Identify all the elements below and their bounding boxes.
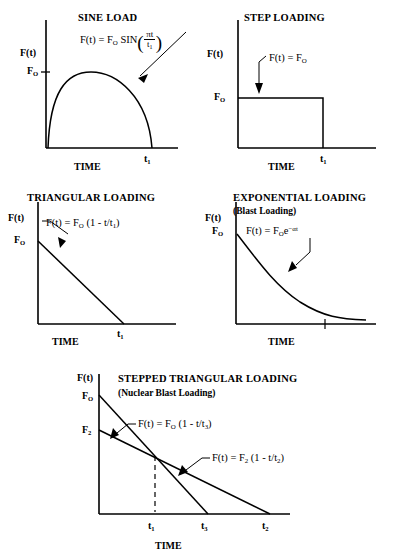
step-annotation-arrowhead: [255, 83, 263, 94]
decay-line-f0-t3: [99, 395, 208, 514]
triangular-loading-plot: [0, 186, 200, 362]
annotation-b-leader: [186, 458, 210, 470]
triangular-annotation-arrowhead: [58, 237, 66, 248]
sine-curve: [48, 72, 152, 148]
sine-annotation-leader: [140, 32, 186, 76]
exponential-decay-curve: [237, 234, 366, 320]
exponential-annotation-leader: [296, 238, 310, 265]
exponential-annotation-arrowhead: [288, 261, 297, 272]
step-pulse-curve: [238, 98, 323, 148]
panel-triangular-loading: TRIANGULAR LOADING F(t) = FO (1 - t/t1) …: [0, 186, 200, 362]
panel-exponential-loading: EXPONENTIAL LOADING (Blast Loading) F(t)…: [200, 186, 400, 362]
exponential-loading-plot: [200, 186, 400, 362]
panel-step-loading: STEP LOADING F(t) = FO F(t) FO TIME t1: [200, 0, 400, 186]
panel-stepped-triangular-loading: STEPPED TRIANGULAR LOADING (Nuclear Blas…: [0, 362, 400, 558]
sine-annotation-arrowhead: [138, 74, 148, 83]
triangular-annotation-leader: [42, 221, 68, 234]
step-annotation-leader: [259, 56, 266, 86]
step-loading-plot: [200, 0, 400, 186]
triangular-decay-line: [38, 241, 124, 324]
panel-sine-load: SINE LOAD F(t) = FO SIN(πtt1) F(t) FO TI…: [0, 0, 200, 186]
annotation-b-arrowhead: [178, 465, 188, 476]
sine-load-plot: [0, 0, 200, 186]
stepped-triangular-plot: [0, 362, 400, 558]
